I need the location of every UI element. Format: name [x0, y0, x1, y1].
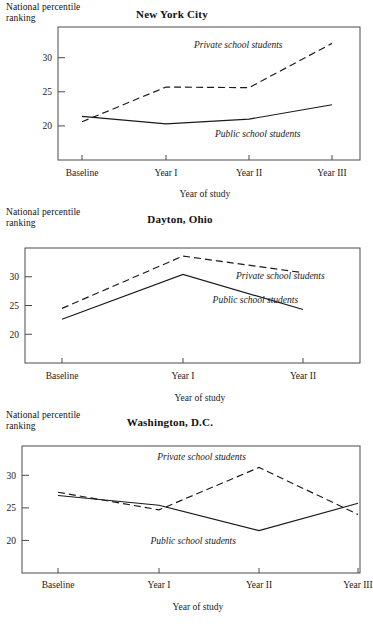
series-label-private: Private school students [235, 271, 325, 281]
y-tick-label-30: 30 [10, 272, 20, 282]
x-tick-label-year-ii: Year II [290, 371, 316, 381]
chart-panel-new-york-city: National percentile ranking New York Cit… [0, 0, 373, 205]
x-tick-label-year-i: Year I [171, 371, 194, 381]
series-label-public: Public school students [212, 295, 299, 305]
x-tick-label-year-iii: Year III [343, 580, 372, 590]
x-tick-label-year-i: Year I [147, 580, 170, 590]
x-axis-title: Year of study [173, 602, 224, 612]
series-line-public [82, 105, 332, 124]
y-tick-label-30: 30 [7, 471, 17, 481]
series-line-private [82, 43, 332, 121]
series-line-private [58, 467, 358, 514]
y-tick-label-25: 25 [7, 503, 17, 513]
series-label-private: Private school students [156, 452, 246, 462]
line-chart-washington-dc: 202530BaselineYear IYear IIYear IIIYear … [0, 408, 373, 624]
x-tick-label-year-ii: Year II [236, 168, 262, 178]
line-chart-dayton-ohio: 202530BaselineYear IYear IIYear of study… [0, 205, 373, 408]
series-line-public [58, 496, 358, 531]
series-label-public: Public school students [149, 536, 236, 546]
y-tick-label-20: 20 [7, 536, 17, 546]
chart-figure: National percentile ranking New York Cit… [0, 0, 373, 624]
plot-frame [22, 446, 360, 573]
series-label-public: Public school students [214, 129, 301, 139]
y-tick-label-25: 25 [43, 87, 53, 97]
x-tick-label-year-ii: Year II [246, 580, 272, 590]
chart-panel-dayton-ohio: National percentile ranking Dayton, Ohio… [0, 205, 373, 408]
x-tick-label-year-iii: Year III [317, 168, 346, 178]
series-label-private: Private school students [193, 40, 283, 50]
line-chart-new-york-city: 202530BaselineYear IYear IIYear IIIYear … [0, 0, 373, 205]
x-axis-title: Year of study [175, 393, 226, 403]
y-tick-label-20: 20 [43, 121, 53, 131]
chart-panel-washington-dc: National percentile ranking Washington, … [0, 408, 373, 624]
plot-frame [25, 248, 360, 363]
y-tick-label-25: 25 [10, 301, 20, 311]
x-tick-label-year-i: Year I [154, 168, 177, 178]
y-tick-label-20: 20 [10, 330, 20, 340]
y-tick-label-30: 30 [43, 53, 53, 63]
x-tick-label-baseline: Baseline [42, 580, 75, 590]
x-tick-label-baseline: Baseline [66, 168, 99, 178]
x-axis-title: Year of study [180, 189, 231, 199]
x-tick-label-baseline: Baseline [46, 371, 79, 381]
